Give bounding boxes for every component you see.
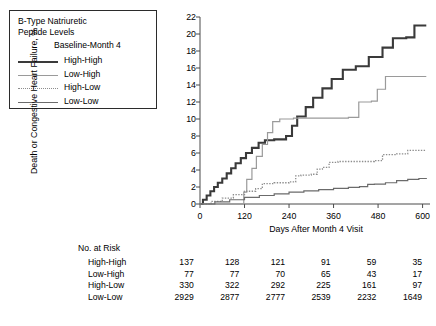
risk-row-value: 1649 [390,291,436,303]
risk-row-value: 2539 [299,291,345,303]
risk-row-value: 161 [345,280,391,292]
risk-row-value: 59 [345,256,391,268]
chart-plot-area: Death or Congestive Heart Failure, % 024… [0,0,436,240]
risk-row-value: 2877 [208,291,254,303]
risk-row-value: 65 [299,268,345,280]
risk-row-label: High-Low [0,280,162,292]
risk-row-value: 2232 [345,291,391,303]
risk-table-row: Low-High777770654317 [0,268,436,280]
risk-row-value: 128 [208,256,254,268]
risk-row-value: 121 [253,256,299,268]
x-axis-tick-label: 480 [358,211,398,221]
risk-row-label: Low-Low [0,291,162,303]
series-line-high-low [200,150,426,204]
risk-row-value: 292 [253,280,299,292]
risk-row-value: 77 [162,268,208,280]
x-axis-label: Days After Month 4 Visit [200,224,432,234]
risk-row-value: 77 [208,268,254,280]
series-line-high-high [200,26,426,205]
risk-table-row: High-High137128121915935 [0,256,436,268]
series-line-low-high [200,77,426,205]
risk-row-value: 330 [162,280,208,292]
risk-row-value: 35 [390,256,436,268]
risk-row-value: 43 [345,268,391,280]
risk-table-row: Low-Low292928772777253922321649 [0,291,436,303]
risk-row-value: 322 [208,280,254,292]
risk-row-label: High-High [0,256,162,268]
risk-row-value: 91 [299,256,345,268]
x-axis-tick-label: 360 [314,211,354,221]
risk-table-title: No. at Risk [78,243,120,253]
x-axis-tick-label: 120 [225,211,265,221]
x-axis-tick-label: 0 [180,211,220,221]
x-axis-tick-label: 600 [403,211,436,221]
risk-row-value: 17 [390,268,436,280]
risk-row-value: 97 [390,280,436,292]
x-axis-tick-label: 240 [269,211,309,221]
risk-row-value: 2929 [162,291,208,303]
chart-canvas [0,0,436,240]
figure-root: B-Type Natriuretic Peptide Levels Baseli… [0,0,436,326]
risk-row-value: 70 [253,268,299,280]
risk-row-label: Low-High [0,268,162,280]
risk-row-value: 2777 [253,291,299,303]
series-line-low-low [200,178,426,204]
risk-table-row: High-Low33032229222516197 [0,280,436,292]
risk-table-grid: High-High137128121915935Low-High77777065… [0,256,436,303]
risk-row-value: 137 [162,256,208,268]
risk-row-value: 225 [299,280,345,292]
